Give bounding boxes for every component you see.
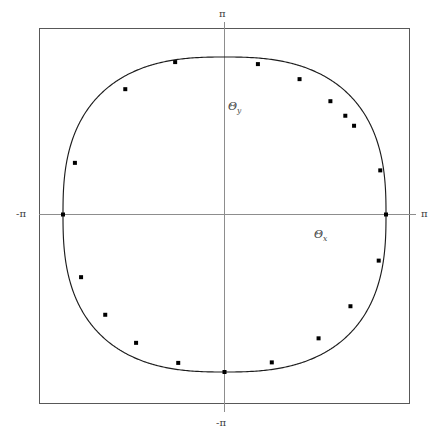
x-axis-min-tick-label: -π <box>16 209 26 219</box>
data-point-marker <box>348 304 352 308</box>
data-point-marker <box>176 361 180 365</box>
theta-y-subscript: y <box>237 106 241 115</box>
data-point-marker <box>123 87 127 91</box>
theta-x-subscript: x <box>323 234 327 243</box>
y-axis-max-tick-label: π <box>219 9 226 19</box>
data-point-marker <box>61 213 65 217</box>
theta-y-glyph: Θ <box>228 100 237 113</box>
data-point-marker <box>270 360 274 364</box>
data-point-marker <box>256 62 260 66</box>
data-point-marker <box>377 259 381 263</box>
plot-canvas <box>0 0 439 439</box>
data-point-marker <box>103 313 107 317</box>
figure-root: π -π -π π Θy Θx <box>0 0 439 439</box>
data-point-marker <box>378 168 382 172</box>
data-point-marker <box>343 114 347 118</box>
data-point-marker <box>328 99 332 103</box>
y-axis-min-tick-label: -π <box>216 418 226 428</box>
theta-x-glyph: Θ <box>314 228 323 241</box>
data-point-marker <box>173 60 177 64</box>
data-point-marker <box>352 124 356 128</box>
data-point-marker <box>73 161 77 165</box>
data-point-marker <box>317 336 321 340</box>
y-axis-name-label: Θy <box>228 101 241 115</box>
x-axis-name-label: Θx <box>314 229 327 243</box>
data-point-marker <box>298 77 302 81</box>
x-axis-max-tick-label: π <box>421 209 428 219</box>
data-point-marker <box>223 370 227 374</box>
data-point-marker <box>79 275 83 279</box>
data-point-marker <box>134 341 138 345</box>
data-point-marker <box>384 213 388 217</box>
